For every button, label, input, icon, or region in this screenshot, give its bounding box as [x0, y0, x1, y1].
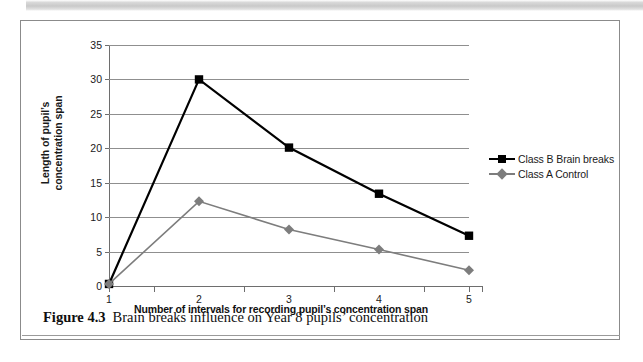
- plot-area: 05101520253035 12345: [109, 45, 469, 286]
- series-class-a: [104, 196, 474, 289]
- diamond-marker: [284, 225, 294, 235]
- y-tick-label: 15: [90, 177, 102, 189]
- y-tick-label: 30: [90, 73, 102, 85]
- y-axis-title: Length of pupil’s concentration span: [39, 63, 69, 223]
- x-tick-mark: [334, 287, 335, 292]
- series-line: [109, 79, 469, 284]
- legend-diamond: [496, 168, 507, 179]
- diamond-marker: [489, 168, 515, 180]
- y-tick-label: 20: [90, 142, 102, 154]
- y-tick-label: 5: [96, 246, 102, 258]
- series-line: [109, 201, 469, 284]
- series-plot-svg: [109, 45, 469, 287]
- diamond-marker: [374, 245, 384, 255]
- y-axis-title-line2: concentration span: [52, 63, 65, 223]
- square-marker: [465, 232, 473, 240]
- square-marker: [195, 75, 203, 83]
- legend-item-class-a[interactable]: Class A Control: [489, 166, 629, 181]
- y-tick-label: 0: [96, 280, 102, 292]
- series-class-b: [105, 75, 473, 288]
- caption-text: Brain breaks influence on Year 8 pupils’…: [113, 309, 428, 325]
- y-tick-label: 35: [90, 39, 102, 51]
- chart-legend: Class B Brain breaksClass A Control: [489, 151, 629, 181]
- square-marker: [375, 190, 383, 198]
- legend-square: [498, 155, 506, 163]
- square-marker: [489, 153, 515, 165]
- legend-label: Class B Brain breaks: [518, 153, 614, 165]
- x-tick-mark: [482, 287, 483, 292]
- y-tick-label: 10: [90, 211, 102, 223]
- chart-area: Length of pupil’s concentration span 051…: [21, 21, 621, 301]
- figure-frame: Length of pupil’s concentration span 051…: [20, 20, 620, 340]
- figure-caption: Figure 4.3Brain breaks influence on Year…: [43, 309, 428, 326]
- legend-item-class-b[interactable]: Class B Brain breaks: [489, 151, 629, 166]
- caption-label: Figure 4.3: [43, 309, 106, 325]
- x-tick-mark: [244, 287, 245, 292]
- diamond-marker: [464, 265, 474, 275]
- square-marker: [285, 143, 293, 151]
- caption-divider: [22, 335, 620, 336]
- x-tick-mark: [154, 287, 155, 292]
- legend-label: Class A Control: [518, 168, 588, 180]
- x-tick-mark: [469, 287, 470, 292]
- y-tick-label: 25: [90, 108, 102, 120]
- y-axis-title-line1: Length of pupil’s: [39, 63, 52, 223]
- scanned-page-edge-band: [26, 0, 643, 11]
- x-tick-mark: [424, 287, 425, 292]
